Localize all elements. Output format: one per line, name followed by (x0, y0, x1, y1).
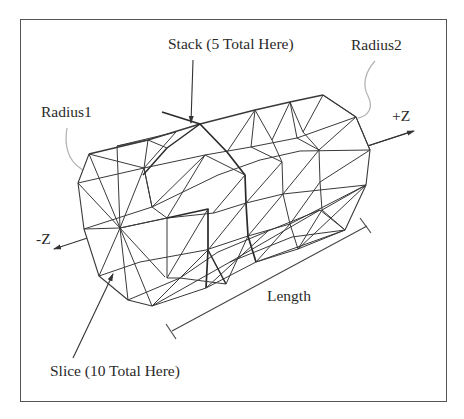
length-label: Length (267, 288, 311, 304)
slice-label: Slice (10 Total Here) (50, 363, 180, 379)
plus-z-label: +Z (392, 108, 410, 124)
cylinder-diagram: Stack (5 Total Here) Radius1 Radius2 +Z … (0, 0, 464, 419)
radius2-label: Radius2 (351, 37, 402, 53)
radius1-label: Radius1 (41, 104, 92, 120)
slice-pointer-arrow (73, 274, 113, 358)
cylinder-mesh (78, 95, 370, 306)
stack-label: Stack (5 Total Here) (168, 36, 294, 52)
stack-pointer-arrow (191, 60, 193, 123)
cylinder-wireframe (0, 0, 464, 419)
radius2-leader (358, 61, 375, 118)
minus-z-label: -Z (36, 231, 51, 247)
